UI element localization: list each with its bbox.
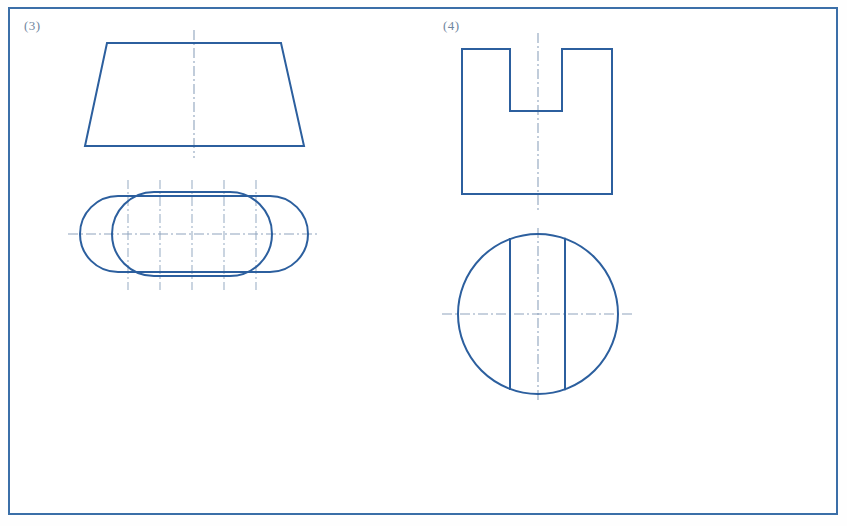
exercise-4-front-view [462, 33, 612, 212]
drawing-frame-border: (3) (4) [8, 7, 838, 515]
drawing-page: (3) (4) [0, 0, 847, 526]
exercise-3-trapezoid-outline [85, 43, 304, 146]
geometry-layer [10, 9, 840, 513]
exercise-3-front-view [85, 30, 304, 158]
exercise-4-notched-rectangle-outline [462, 49, 612, 194]
exercise-4-top-view [442, 228, 632, 402]
exercise-3-top-view [68, 180, 318, 290]
